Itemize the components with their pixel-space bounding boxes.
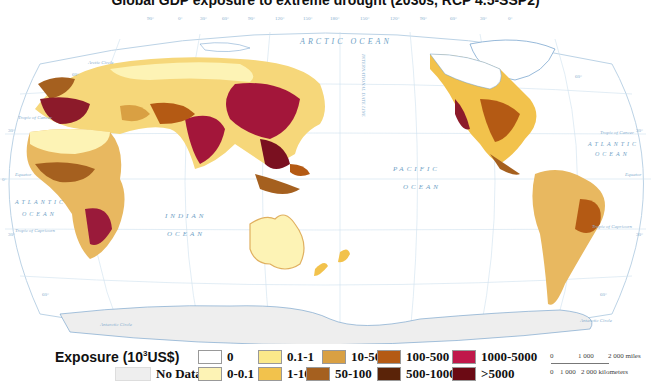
- legend-item-0-0.1: 0-0.1: [198, 366, 254, 382]
- legend-item-0.1-1: 0.1-1: [258, 349, 314, 365]
- svg-text:150°: 150°: [303, 16, 313, 21]
- svg-text:OCEAN: OCEAN: [167, 230, 205, 238]
- date-line-label: INTERNATIONAL DATE LINE: [361, 53, 366, 117]
- legend-swatch: [258, 350, 282, 364]
- legend-item-gt-5000: >5000: [452, 366, 514, 382]
- scale-bar: 0 1 000 2 000 miles 0 1 000 2 000 kilome…: [548, 352, 648, 382]
- map-title: Global GDP exposure to extreme drought (…: [0, 0, 651, 8]
- svg-text:30°: 30°: [200, 16, 207, 21]
- svg-text:90°: 90°: [147, 16, 154, 21]
- legend-item-0: 0: [198, 349, 234, 365]
- svg-text:120°: 120°: [275, 16, 285, 21]
- equator-label-west: Equator: [14, 172, 31, 177]
- legend-item-50-100: 50-100: [306, 366, 372, 382]
- svg-text:30°: 30°: [636, 128, 643, 133]
- legend-item-1000-5000: 1000-5000: [452, 349, 537, 365]
- antarctic-circle-label-east: Antarctic Circle: [579, 318, 613, 323]
- world-map: ARCTIC OCEAN ATLANTIC OCEAN ATLANTIC OCE…: [0, 14, 651, 344]
- svg-text:30°: 30°: [8, 232, 15, 237]
- legend-swatch: [377, 367, 401, 381]
- svg-text:60°: 60°: [42, 292, 49, 297]
- tropic-capricorn-label-east: Tropic of Capricorn: [592, 224, 633, 229]
- arctic-circle-label: Arctic Circle: [87, 60, 114, 65]
- legend-item-10-50: 10-50: [322, 349, 381, 365]
- tropic-cancer-label-west: Tropic of Cancer: [18, 115, 52, 120]
- legend-swatch: [452, 350, 476, 364]
- svg-text:30°: 30°: [636, 232, 643, 237]
- legend-swatch: [198, 350, 222, 364]
- legend-swatch: [322, 350, 346, 364]
- svg-text:OCEAN: OCEAN: [403, 183, 441, 191]
- svg-text:OCEAN: OCEAN: [22, 211, 57, 217]
- legend-swatch: [258, 367, 282, 381]
- legend-swatch: [377, 350, 401, 364]
- legend-swatch: [306, 367, 330, 381]
- equator-label-east: Equator: [624, 172, 641, 177]
- atlantic-ocean-label-west: ATLANTIC: [14, 199, 66, 205]
- svg-text:60°: 60°: [72, 72, 79, 77]
- svg-text:0°: 0°: [2, 177, 7, 182]
- svg-text:0°: 0°: [508, 16, 513, 21]
- svg-text:0°: 0°: [178, 16, 183, 21]
- indian-ocean-label: INDIAN: [164, 212, 206, 220]
- legend-swatch: [452, 367, 476, 381]
- legend-swatch: [115, 367, 151, 381]
- legend-item-100-500: 100-500: [377, 349, 449, 365]
- longitude-ticks-top: 90° 0° 30° 60° 90° 120° 150° 180° 150° 1…: [147, 16, 513, 21]
- svg-text:60°: 60°: [600, 292, 607, 297]
- legend-item-500-1000: 500-1000: [377, 366, 456, 382]
- tropic-capricorn-label-west: Tropic of Capricorn: [15, 228, 56, 233]
- atlantic-ocean-label-east: ATLANTIC: [587, 141, 639, 147]
- tropic-cancer-label-east: Tropic of Cancer: [600, 130, 634, 135]
- svg-text:180°: 180°: [330, 16, 340, 21]
- svg-text:60°: 60°: [222, 16, 229, 21]
- svg-text:30°: 30°: [8, 128, 15, 133]
- svg-text:OCEAN: OCEAN: [595, 151, 630, 157]
- arctic-ocean-label: ARCTIC OCEAN: [299, 37, 392, 46]
- legend-title: Exposure (103US$): [55, 349, 179, 365]
- antarctic-circle-label-west: Antarctic Circle: [99, 322, 133, 327]
- svg-text:150°: 150°: [360, 16, 370, 21]
- legend-swatch: [198, 367, 222, 381]
- legend-item-1-10: 1-10: [258, 366, 311, 382]
- svg-text:30°: 30°: [480, 16, 487, 21]
- svg-text:120°: 120°: [390, 16, 400, 21]
- svg-text:60°: 60°: [450, 16, 457, 21]
- svg-text:90°: 90°: [420, 16, 427, 21]
- svg-text:90°: 90°: [248, 16, 255, 21]
- legend-item-no-data: No Data: [115, 366, 202, 382]
- pacific-ocean-label: PACIFIC: [392, 165, 440, 173]
- svg-text:60°: 60°: [575, 74, 582, 79]
